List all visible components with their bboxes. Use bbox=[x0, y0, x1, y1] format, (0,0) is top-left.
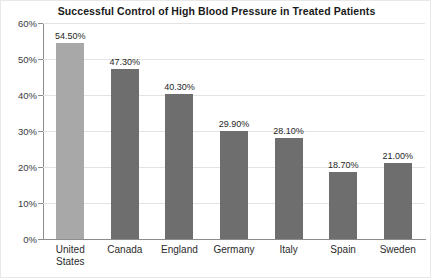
y-axis-tick-mark bbox=[38, 131, 43, 132]
bar-value-label: 47.30% bbox=[95, 57, 155, 67]
y-axis-tick-label: 30% bbox=[3, 126, 37, 137]
bar-value-label: 40.30% bbox=[149, 82, 209, 92]
x-axis-line bbox=[43, 239, 426, 240]
plot-area: 54.50%47.30%40.30%29.90%28.10%18.70%21.0… bbox=[43, 23, 425, 239]
bar-value-label: 28.10% bbox=[259, 126, 319, 136]
bar-value-label: 29.90% bbox=[204, 119, 264, 129]
bar[interactable] bbox=[275, 138, 303, 239]
y-axis-tick-mark bbox=[38, 239, 43, 240]
bar-value-label: 18.70% bbox=[313, 160, 373, 170]
y-axis-tick-label: 20% bbox=[3, 162, 37, 173]
y-axis-tick-label: 0% bbox=[3, 234, 37, 245]
y-axis-tick-label: 40% bbox=[3, 90, 37, 101]
gridline bbox=[43, 23, 425, 24]
gridline bbox=[43, 95, 425, 96]
y-axis-tick-labels: 0%10%20%30%40%50%60% bbox=[1, 1, 37, 278]
bar[interactable] bbox=[56, 43, 84, 239]
y-axis-tick-label: 50% bbox=[3, 54, 37, 65]
bar-value-label: 21.00% bbox=[368, 151, 428, 161]
bar[interactable] bbox=[384, 163, 412, 239]
bar[interactable] bbox=[329, 172, 357, 239]
y-axis-tick-mark bbox=[38, 167, 43, 168]
y-axis-tick-mark bbox=[38, 23, 43, 24]
bar[interactable] bbox=[220, 131, 248, 239]
bar[interactable] bbox=[111, 69, 139, 239]
y-axis-tick-mark bbox=[38, 59, 43, 60]
y-axis-tick-label: 10% bbox=[3, 198, 37, 209]
chart-title: Successful Control of High Blood Pressur… bbox=[1, 5, 431, 17]
y-axis-tick-mark bbox=[38, 203, 43, 204]
y-axis-tick-label: 60% bbox=[3, 18, 37, 29]
y-axis-tick-mark bbox=[38, 95, 43, 96]
x-axis-category-label: Sweden bbox=[364, 244, 431, 256]
bar[interactable] bbox=[165, 94, 193, 239]
bar-value-label: 54.50% bbox=[40, 31, 100, 41]
chart-canvas: Successful Control of High Blood Pressur… bbox=[0, 0, 431, 278]
